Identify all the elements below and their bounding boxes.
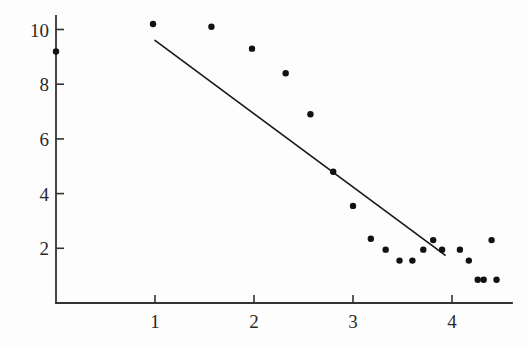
data-point xyxy=(420,246,426,252)
data-point xyxy=(208,24,214,30)
x-tick-label-3: 3 xyxy=(348,312,358,331)
data-point xyxy=(382,246,388,252)
data-point xyxy=(475,277,481,283)
trend-line-segment xyxy=(155,40,445,255)
data-point xyxy=(150,21,156,27)
data-point xyxy=(396,257,402,263)
data-point xyxy=(307,111,313,117)
y-tick-label-6: 6 xyxy=(6,129,49,148)
data-point xyxy=(488,237,494,243)
data-point xyxy=(350,203,356,209)
data-points xyxy=(53,21,500,283)
x-axis-ticks xyxy=(155,295,452,303)
y-tick-label-10: 10 xyxy=(6,20,49,39)
x-tick-label-2: 2 xyxy=(249,312,259,331)
data-point xyxy=(466,257,472,263)
y-tick-label-2: 2 xyxy=(6,239,49,258)
plot-area xyxy=(0,0,529,346)
data-point xyxy=(282,70,288,76)
data-point xyxy=(457,246,463,252)
trend-line xyxy=(155,40,445,255)
scatter-chart: 246810 1234 xyxy=(0,0,529,346)
data-point xyxy=(430,237,436,243)
y-tick-label-8: 8 xyxy=(6,75,49,94)
axis-lines xyxy=(56,16,512,303)
data-point xyxy=(409,257,415,263)
y-axis-ticks xyxy=(56,30,64,249)
data-point xyxy=(330,169,336,175)
data-point xyxy=(493,277,499,283)
data-point xyxy=(249,45,255,51)
data-point xyxy=(439,246,445,252)
x-tick-label-1: 1 xyxy=(150,312,160,331)
data-point xyxy=(368,236,374,242)
x-tick-label-4: 4 xyxy=(447,312,457,331)
data-point xyxy=(480,277,486,283)
data-point xyxy=(53,48,59,54)
y-tick-label-4: 4 xyxy=(6,184,49,203)
